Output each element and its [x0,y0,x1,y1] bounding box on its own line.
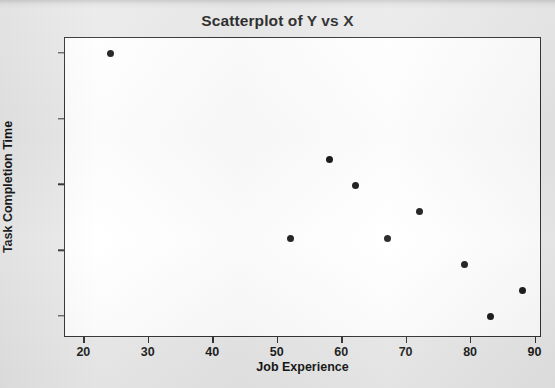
data-point [487,313,494,320]
chart-title: Scatterplot of Y vs X [0,12,555,30]
data-point [326,156,333,163]
data-point [107,50,114,57]
x-tick-mark [535,337,536,343]
data-point [352,182,359,189]
data-point [416,208,423,215]
data-point [519,287,526,294]
x-tick-label: 30 [128,345,168,359]
plot-area [64,37,541,337]
x-tick-mark [148,337,149,343]
x-tick-mark [341,337,342,343]
y-axis-title: Task Completion Time [1,121,15,253]
data-point [461,261,468,268]
scatterplot-figure: Scatterplot of Y vs X Task Completion Ti… [0,0,555,388]
data-point [384,235,391,242]
x-tick-label: 50 [257,345,297,359]
x-tick-mark [212,337,213,343]
x-tick-mark [83,337,84,343]
x-tick-label: 60 [321,345,361,359]
x-tick-label: 20 [63,345,103,359]
data-points-layer [65,38,540,336]
x-tick-label: 90 [515,345,555,359]
data-point [287,235,294,242]
x-tick-mark [406,337,407,343]
x-tick-label: 80 [450,345,490,359]
x-tick-mark [277,337,278,343]
x-tick-label: 40 [192,345,232,359]
x-tick-mark [470,337,471,343]
x-axis-title: Job Experience [64,360,541,374]
x-tick-label: 70 [386,345,426,359]
